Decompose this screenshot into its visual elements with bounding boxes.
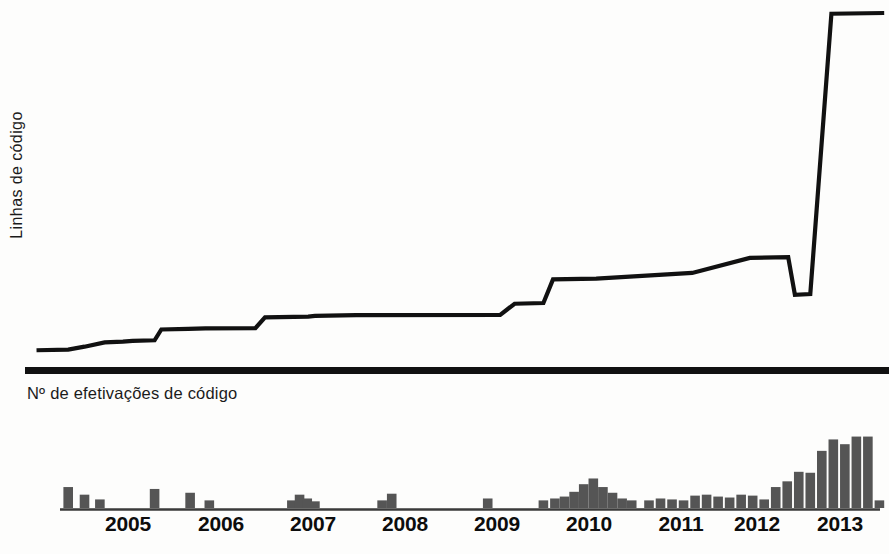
- bar: [794, 472, 804, 508]
- bar: [63, 487, 73, 508]
- bar: [377, 500, 387, 508]
- bar: [679, 500, 689, 508]
- bar: [852, 437, 862, 508]
- bar: [550, 498, 560, 508]
- bar: [569, 492, 579, 508]
- x-axis-tick-2005: 2005: [105, 512, 151, 536]
- bar: [771, 487, 781, 508]
- bar: [150, 489, 160, 508]
- bar: [539, 500, 549, 508]
- bar: [95, 499, 105, 508]
- bar: [725, 498, 735, 508]
- bar: [702, 495, 712, 508]
- lines-of-code-series: [37, 13, 885, 350]
- bar: [840, 444, 850, 508]
- x-axis-tick-labels: 200520062007200820092010201120122013: [0, 512, 889, 552]
- bar: [748, 496, 758, 508]
- bar: [598, 487, 608, 508]
- x-axis-tick-2012: 2012: [734, 512, 780, 536]
- bar: [863, 437, 873, 508]
- bar: [667, 499, 677, 508]
- bar: [80, 495, 90, 508]
- bar: [205, 500, 215, 508]
- x-axis-tick-2013: 2013: [817, 512, 863, 536]
- bar: [627, 500, 637, 508]
- bar: [656, 498, 666, 508]
- bar: [736, 495, 746, 508]
- bar: [690, 496, 700, 508]
- bar: [644, 500, 654, 508]
- panel-separator-rule: [25, 367, 889, 374]
- chart-figure: Linhas de código Nº de efetivações de có…: [0, 0, 889, 554]
- x-axis-tick-2006: 2006: [198, 512, 244, 536]
- bar-series: [63, 437, 884, 508]
- x-axis-tick-2011: 2011: [659, 512, 704, 536]
- bar: [829, 439, 839, 508]
- bar: [713, 497, 723, 508]
- bar: [759, 499, 769, 508]
- bar: [579, 484, 589, 508]
- x-axis-tick-2009: 2009: [474, 512, 520, 536]
- bar: [875, 500, 885, 508]
- bar: [805, 473, 815, 508]
- bar: [817, 451, 827, 508]
- x-axis-tick-2008: 2008: [382, 512, 428, 536]
- x-axis-tick-2007: 2007: [290, 512, 336, 536]
- x-axis-tick-2010: 2010: [566, 512, 612, 536]
- bar: [310, 501, 320, 508]
- lines-of-code-panel: [0, 0, 889, 372]
- bar: [387, 494, 397, 508]
- bar: [185, 493, 195, 508]
- bar: [782, 481, 792, 508]
- bar: [617, 498, 627, 508]
- bar: [483, 498, 493, 508]
- lines-of-code-plot: [0, 0, 889, 372]
- bar: [589, 478, 599, 508]
- bar: [560, 497, 570, 508]
- bar: [608, 493, 618, 508]
